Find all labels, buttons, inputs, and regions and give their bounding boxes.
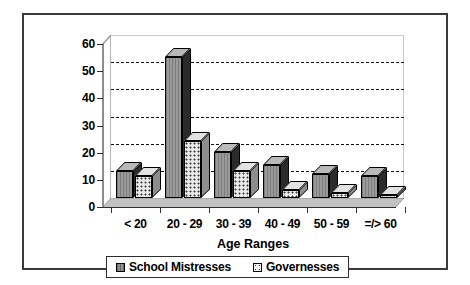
bar-group	[209, 35, 258, 207]
ytick-mark-50	[97, 71, 103, 72]
bar-governesses[interactable]	[282, 190, 299, 198]
bar-face	[184, 141, 201, 198]
ytick-mark-30	[97, 126, 103, 127]
bar-school-mistresses[interactable]	[263, 165, 280, 198]
bar-school-mistresses[interactable]	[165, 57, 182, 198]
ytick-mark-10	[97, 180, 103, 181]
bar-school-mistresses[interactable]	[116, 171, 133, 198]
ytick-label-0: 0	[89, 200, 95, 214]
bar-face	[233, 171, 250, 198]
bar-governesses[interactable]	[380, 195, 397, 198]
category-label: =/> 60	[364, 217, 396, 231]
legend-item-governesses[interactable]: Governesses	[253, 260, 339, 274]
bar-governesses[interactable]	[184, 141, 201, 198]
bar-face	[135, 176, 152, 198]
bar-school-mistresses[interactable]	[361, 176, 378, 198]
x-axis-title: Age Ranges	[102, 237, 404, 251]
bar-face	[282, 190, 299, 198]
category-label: 20 - 29	[167, 217, 202, 231]
bar-face	[331, 193, 348, 198]
bar-group	[160, 35, 209, 207]
ytick-label-50: 50	[82, 64, 95, 78]
bar-governesses[interactable]	[135, 176, 152, 198]
ytick-label-20: 20	[82, 146, 95, 160]
category-tick	[405, 207, 406, 213]
plot-area: 60 50 40 30 20 10 0 < 2020 - 2930 - 3940…	[102, 35, 404, 207]
bar-school-mistresses[interactable]	[312, 174, 329, 198]
ytick-label-40: 40	[82, 91, 95, 105]
bar-governesses[interactable]	[331, 193, 348, 198]
legend-label-school-mistresses: School Mistresses	[129, 260, 231, 274]
category-label: 40 - 49	[265, 217, 300, 231]
bar-face	[380, 195, 397, 198]
bar-group	[258, 35, 307, 207]
ytick-mark-60	[97, 44, 103, 45]
category-label: < 20	[124, 217, 147, 231]
chart-frame: 60 50 40 30 20 10 0 < 2020 - 2930 - 3940…	[22, 13, 448, 270]
ytick-label-30: 30	[82, 119, 95, 133]
legend-swatch-icon-school-mistresses	[116, 263, 125, 272]
ytick-label-60: 60	[82, 37, 95, 51]
x-axis-line	[102, 207, 396, 208]
bar-school-mistresses[interactable]	[214, 152, 231, 198]
bar-face	[361, 176, 378, 198]
bar-face	[312, 174, 329, 198]
ytick-mark-40	[97, 98, 103, 99]
category-label: 30 - 39	[216, 217, 251, 231]
chart-figure: 60 50 40 30 20 10 0 < 2020 - 2930 - 3940…	[0, 0, 470, 285]
category-label: 50 - 59	[314, 217, 349, 231]
bar-group	[356, 35, 405, 207]
legend-label-governesses: Governesses	[266, 260, 339, 274]
bar-group	[111, 35, 160, 207]
bar-group	[307, 35, 356, 207]
ytick-label-10: 10	[82, 173, 95, 187]
bar-governesses[interactable]	[233, 171, 250, 198]
bar-face	[263, 165, 280, 198]
legend-item-school-mistresses[interactable]: School Mistresses	[116, 260, 231, 274]
bar-face	[165, 57, 182, 198]
bar-face	[116, 171, 133, 198]
bar-face	[214, 152, 231, 198]
legend-swatch-icon-governesses	[253, 263, 262, 272]
chart-legend: School Mistresses Governesses	[106, 256, 349, 278]
ytick-mark-20	[97, 153, 103, 154]
